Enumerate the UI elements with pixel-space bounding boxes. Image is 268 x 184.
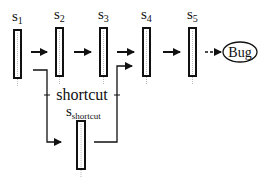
shortcut-exit-path [94, 66, 132, 142]
state-box-s4 [143, 28, 150, 84]
state-box-s1 [14, 30, 21, 86]
shortcut-diagram: s1 s2 s3 s4 s5 Bug [0, 0, 268, 184]
state-label-shortcut: sshortcut [66, 103, 101, 121]
state-label-s3: s3 [98, 6, 109, 24]
state-label-s5: s5 [187, 6, 198, 24]
state-label-s2: s2 [54, 6, 65, 24]
shortcut-label: shortcut [56, 86, 108, 103]
bug-label: Bug [228, 45, 251, 60]
state-box-shortcut [77, 121, 85, 178]
state-label-s1: s1 [12, 8, 23, 26]
state-label-s4: s4 [141, 6, 152, 24]
bug-node: Bug [223, 42, 257, 62]
state-box-s2 [56, 28, 63, 84]
state-box-s5 [189, 28, 196, 84]
shortcut-entry-path [33, 70, 61, 142]
state-box-s3 [100, 28, 107, 84]
